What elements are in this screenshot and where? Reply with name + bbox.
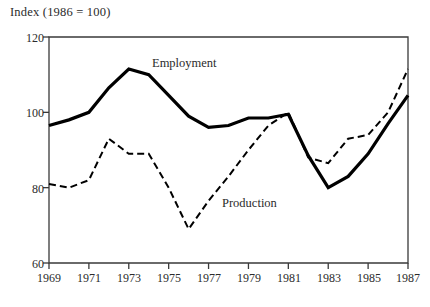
series-label-employment: Employment	[152, 56, 217, 71]
series-label-production: Production	[222, 196, 277, 211]
y-tick-label-120: 120	[14, 31, 44, 46]
y-tick-label-60: 60	[14, 257, 44, 272]
chart-figure: Index (1986 = 100) 120 100 80 60 1969 19…	[0, 0, 430, 307]
x-tick-label-1985: 1985	[349, 271, 389, 286]
y-tick-label-100: 100	[14, 106, 44, 121]
x-tick-label-1975: 1975	[149, 271, 189, 286]
y-axis-ticks	[43, 37, 49, 263]
x-tick-label-1973: 1973	[109, 271, 149, 286]
x-tick-label-1969: 1969	[29, 271, 69, 286]
x-axis-ticks	[49, 263, 408, 269]
x-tick-label-1971: 1971	[69, 271, 109, 286]
plot-area	[0, 0, 430, 307]
x-tick-label-1979: 1979	[229, 271, 269, 286]
x-tick-label-1981: 1981	[269, 271, 309, 286]
y-tick-label-80: 80	[14, 182, 44, 197]
x-tick-label-1977: 1977	[189, 271, 229, 286]
axis-frame	[49, 37, 408, 263]
series-line-employment	[49, 69, 408, 188]
x-tick-label-1987: 1987	[388, 271, 428, 286]
chart-title: Index (1986 = 100)	[10, 5, 111, 20]
x-tick-label-1983: 1983	[309, 271, 349, 286]
